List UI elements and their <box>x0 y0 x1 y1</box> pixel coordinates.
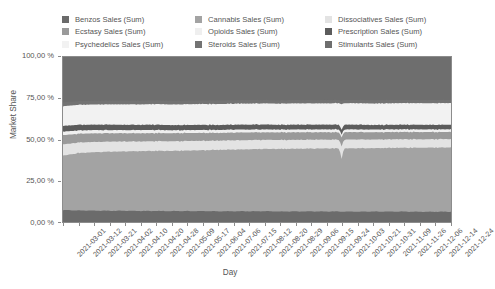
x-tick-mark <box>327 223 328 226</box>
y-tick-label: 100,00 % <box>22 52 54 60</box>
x-tick-mark <box>435 223 436 226</box>
plot-area <box>62 56 452 223</box>
y-tick-mark <box>58 140 61 141</box>
y-tick-mark <box>58 181 61 182</box>
x-tick-mark <box>404 223 405 226</box>
x-tick-mark <box>342 223 343 226</box>
x-tick-mark <box>156 223 157 226</box>
legend-item-label: Dissociatives Sales (Sum) <box>338 15 426 24</box>
legend-item[interactable]: Cannabis Sales (Sum) <box>195 13 325 26</box>
x-axis-title: Day <box>0 268 460 277</box>
x-tick-mark <box>249 223 250 226</box>
legend-item-label: Psychedelics Sales (Sum) <box>75 40 163 49</box>
legend-item[interactable]: Dissociatives Sales (Sum) <box>325 13 452 26</box>
x-tick-mark <box>265 223 266 226</box>
y-tick-label: 50,00 % <box>26 136 54 144</box>
x-tick-mark <box>358 223 359 226</box>
legend-item-label: Cannabis Sales (Sum) <box>208 15 284 24</box>
legend-swatch-icon <box>325 28 332 35</box>
legend-swatch-icon <box>62 41 69 48</box>
legend-swatch-icon <box>325 41 332 48</box>
x-axis: 2021-03-012021-03-122021-03-212021-04-02… <box>0 223 460 268</box>
area-band <box>63 210 451 222</box>
x-tick-mark <box>234 223 235 226</box>
x-tick-mark <box>280 223 281 226</box>
legend-item-label: Ecstasy Sales (Sum) <box>75 27 145 36</box>
legend-item[interactable]: Prescription Sales (Sum) <box>325 26 452 39</box>
x-tick-mark <box>218 223 219 226</box>
chart-legend: Benzos Sales (Sum)Ecstasy Sales (Sum)Psy… <box>62 13 452 53</box>
legend-item-label: Stimulants Sales (Sum) <box>338 40 417 49</box>
legend-item[interactable]: Opioids Sales (Sum) <box>195 26 325 39</box>
legend-swatch-icon <box>62 28 69 35</box>
legend-item-label: Benzos Sales (Sum) <box>75 15 144 24</box>
legend-item-label: Steroids Sales (Sum) <box>208 40 280 49</box>
legend-column-2: Dissociatives Sales (Sum)Prescription Sa… <box>325 13 452 51</box>
y-tick-mark <box>58 98 61 99</box>
x-tick-mark <box>373 223 374 226</box>
legend-item[interactable]: Stimulants Sales (Sum) <box>325 38 452 51</box>
legend-column-0: Benzos Sales (Sum)Ecstasy Sales (Sum)Psy… <box>62 13 195 51</box>
x-tick-mark <box>63 223 64 226</box>
x-tick-mark <box>296 223 297 226</box>
y-tick-label: 25,00 % <box>26 177 54 185</box>
x-tick-mark <box>125 223 126 226</box>
legend-column-1: Cannabis Sales (Sum)Opioids Sales (Sum)S… <box>195 13 325 51</box>
legend-swatch-icon <box>195 16 202 23</box>
x-tick-mark <box>451 223 452 226</box>
legend-item[interactable]: Psychedelics Sales (Sum) <box>62 38 195 51</box>
legend-item-label: Prescription Sales (Sum) <box>338 27 422 36</box>
y-axis-title: Market Share <box>9 75 18 155</box>
x-tick-mark <box>79 223 80 226</box>
legend-swatch-icon <box>325 16 332 23</box>
legend-item-label: Opioids Sales (Sum) <box>208 27 278 36</box>
x-tick-mark <box>172 223 173 226</box>
legend-swatch-icon <box>195 41 202 48</box>
y-tick-mark <box>58 56 61 57</box>
legend-swatch-icon <box>195 28 202 35</box>
x-tick-mark <box>187 223 188 226</box>
x-tick-mark <box>420 223 421 226</box>
x-tick-mark <box>389 223 390 226</box>
x-tick-mark <box>141 223 142 226</box>
x-tick-mark <box>94 223 95 226</box>
legend-item[interactable]: Ecstasy Sales (Sum) <box>62 26 195 39</box>
legend-item[interactable]: Benzos Sales (Sum) <box>62 13 195 26</box>
legend-item[interactable]: Steroids Sales (Sum) <box>195 38 325 51</box>
plot-svg <box>63 57 451 222</box>
x-tick-mark <box>203 223 204 226</box>
y-tick-label: 75,00 % <box>26 94 54 102</box>
x-tick-mark <box>311 223 312 226</box>
x-tick-mark <box>110 223 111 226</box>
legend-swatch-icon <box>62 16 69 23</box>
